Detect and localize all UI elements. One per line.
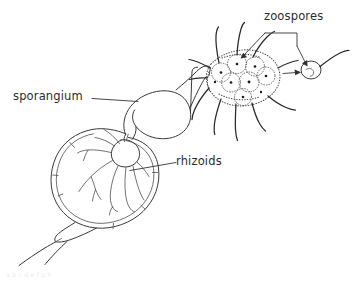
diagram-canvas xyxy=(0,0,352,284)
label-zoospores: zoospores xyxy=(264,11,323,23)
zoospore-nucleus-extra-a xyxy=(214,81,216,83)
sporangium-base-right xyxy=(132,127,136,140)
host-cell-stalk xyxy=(19,223,97,266)
rhizoid-apophysis xyxy=(111,140,139,167)
rhizoid-branch-6 xyxy=(95,138,115,147)
flagella-group xyxy=(189,23,298,141)
flagellum-3 xyxy=(253,32,275,58)
free-zoospore-nucleus-arc xyxy=(306,68,314,76)
host-cell-inner-wall xyxy=(56,134,154,224)
rhizoid-branch-1 xyxy=(110,166,118,207)
sporangium-body-lower xyxy=(133,110,191,139)
stalk-septum xyxy=(44,242,56,249)
host-cell-wall-mark-bottom xyxy=(113,223,114,228)
free-zoospore-flagellum xyxy=(320,50,349,66)
zoospores-leader-to-mass xyxy=(244,33,265,55)
zoospore-1-nucleus xyxy=(220,71,223,74)
rhizoids-leader-line xyxy=(130,163,176,171)
flagellum-7 xyxy=(235,104,237,141)
zoospore-6-nucleus xyxy=(265,75,268,78)
flagellum-4 xyxy=(189,60,210,69)
rhizoid-branch-4b xyxy=(91,177,96,190)
stalk-trailing-edge-upper xyxy=(19,249,44,266)
rhizoid-branch-1b xyxy=(113,207,118,212)
flagellum-8 xyxy=(252,103,266,131)
zoospore-mass-texture-lower xyxy=(219,94,259,100)
flagellum-5 xyxy=(192,88,209,120)
flagellum-9 xyxy=(268,96,296,110)
flagellum-1 xyxy=(216,27,219,63)
label-rhizoids: rhizoids xyxy=(176,156,222,168)
rhizoid-branch-1c xyxy=(110,207,113,215)
zoospore-4-nucleus xyxy=(230,81,233,84)
rhizoid-branch-4c xyxy=(96,190,102,200)
stalk-lower-edge xyxy=(56,228,97,242)
rhizoid-system xyxy=(78,130,150,216)
rhizoid-branch-2 xyxy=(125,167,130,208)
zoospore-5-nucleus xyxy=(248,81,251,84)
free-zoospore-group xyxy=(283,50,349,79)
host-cell-outer-wall xyxy=(51,129,159,229)
rhizoid-branch-5 xyxy=(78,150,112,153)
rhizoid-branch-4 xyxy=(79,161,113,192)
flagellum-6 xyxy=(214,99,221,135)
rhizoid-branch-3 xyxy=(133,166,144,200)
host-cell xyxy=(51,129,159,229)
zoospores-leader-to-free xyxy=(297,46,305,62)
release-arrow-shaft xyxy=(283,73,297,74)
rhizoid-branch-5b xyxy=(84,150,89,161)
stalk-junction xyxy=(56,239,62,242)
flagellum-2 xyxy=(237,23,245,56)
sporangium-base-left xyxy=(124,135,126,142)
flagellum-10 xyxy=(278,61,298,69)
sporangium-leader-line xyxy=(92,99,138,102)
zoospore-nucleus-extra-b xyxy=(260,91,262,93)
label-sporangium: sporangium xyxy=(13,91,83,103)
rhizoid-branch-4d xyxy=(93,190,96,202)
footer-caption-fragment: a b c d e f g h xyxy=(6,272,350,278)
host-cell-wall-mark-upper xyxy=(127,134,129,140)
zoospore-3-nucleus xyxy=(254,65,257,68)
stalk-trailing-edge-lower xyxy=(45,242,67,265)
rhizoid-branch-2b xyxy=(130,208,135,212)
host-cell-wall-mark-left xyxy=(53,175,59,176)
figure-root: zoospores sporangium rhizoids a b c d e … xyxy=(0,0,352,284)
zoospore-7-nucleus xyxy=(242,96,245,99)
zoospore-2-nucleus xyxy=(236,63,239,66)
release-arrow-head xyxy=(295,70,302,76)
host-cell-wall-mark-lower-right xyxy=(141,206,145,210)
